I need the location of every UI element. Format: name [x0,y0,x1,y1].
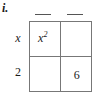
grid-cell-row1-col2[interactable] [61,22,92,57]
row-label-1: x [10,32,26,45]
row-label-2: 2 [10,66,26,79]
problem-label: i. [2,1,8,15]
area-model-grid: x2 6 [29,21,92,92]
grid-cell-row2-col1[interactable] [30,57,61,92]
column-1-blank-line[interactable] [35,14,51,15]
grid-cell-row2-col2[interactable]: 6 [61,57,92,92]
grid-cell-row2-col2-value: 6 [74,69,80,81]
grid-cell-row1-col1-exponent: 2 [43,30,47,39]
column-2-blank-line[interactable] [67,14,83,15]
grid-cell-row1-col1[interactable]: x2 [30,22,61,57]
worksheet-problem-figure: i. x 2 x2 6 [0,0,100,99]
grid-cell-row1-col1-value: x2 [38,32,47,44]
